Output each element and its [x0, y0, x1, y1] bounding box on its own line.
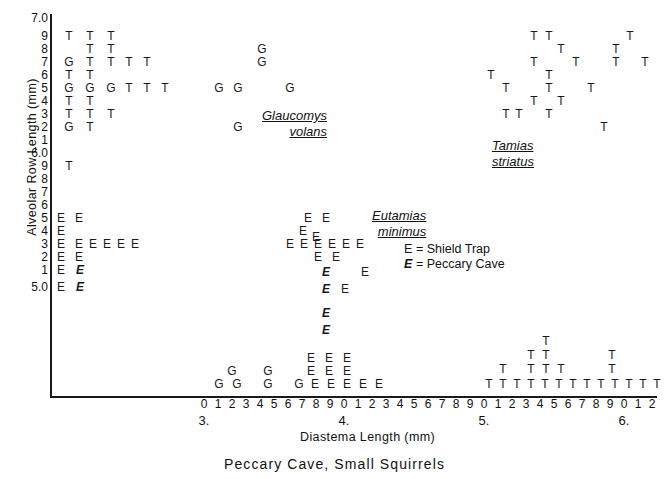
species-genus: Eutamias: [372, 208, 426, 224]
x-tick-label: 1: [212, 398, 224, 410]
x-tick-label: 2: [646, 398, 658, 410]
data-point-t: T: [554, 43, 568, 55]
data-point-g: G: [261, 365, 275, 377]
data-point-t: T: [605, 363, 619, 375]
data-point-t: T: [539, 349, 553, 361]
x-tick-label: 8: [590, 398, 602, 410]
data-point-t: T: [597, 121, 611, 133]
data-point-t: T: [140, 82, 154, 94]
data-point-t: T: [104, 56, 118, 68]
data-point-t: T: [538, 378, 552, 390]
data-point-e: E: [128, 238, 142, 250]
data-point-t: T: [580, 378, 594, 390]
data-point-t: T: [609, 43, 623, 55]
x-tick-label: 1: [632, 398, 644, 410]
legend: E= Shield TrapE= Peccary Cave: [404, 242, 505, 272]
x-tick-label: 6: [282, 398, 294, 410]
data-point-t: T: [83, 30, 97, 42]
data-point-e: E: [72, 212, 86, 224]
data-point-g: G: [231, 121, 245, 133]
x-tick-label: 0: [338, 398, 350, 410]
data-point-e: E: [100, 238, 114, 250]
data-point-t: T: [158, 82, 172, 94]
data-point-t: T: [512, 108, 526, 120]
x-tick-label: 0: [198, 398, 210, 410]
data-point-t: T: [122, 82, 136, 94]
legend-symbol: E: [404, 242, 416, 257]
legend-entry: E= Shield Trap: [404, 242, 505, 257]
data-point-g: G: [230, 378, 244, 390]
data-point-e: E: [72, 238, 86, 250]
data-point-e: E: [86, 238, 100, 250]
data-point-g: G: [255, 56, 269, 68]
data-point-t: T: [527, 95, 541, 107]
x-tick-label: 1: [492, 398, 504, 410]
x-tick-label: 6: [422, 398, 434, 410]
data-point-e-bold: E: [319, 307, 333, 319]
data-point-e: E: [54, 251, 68, 263]
data-point-e: E: [301, 212, 315, 224]
data-point-t: T: [83, 95, 97, 107]
y-axis-title: Alveolar Row Length (mm): [25, 62, 39, 252]
data-point-t: T: [608, 378, 622, 390]
data-point-e: E: [296, 225, 310, 237]
data-point-t: T: [539, 363, 553, 375]
data-point-e: E: [283, 238, 297, 250]
data-point-t: T: [140, 56, 154, 68]
data-point-t: T: [83, 69, 97, 81]
data-point-g: G: [231, 82, 245, 94]
data-point-t: T: [542, 69, 556, 81]
data-point-e: E: [297, 238, 311, 250]
x-major-tick-label: 3.: [191, 414, 217, 427]
data-point-t: T: [638, 56, 652, 68]
y-tick-label: 5.0: [12, 281, 48, 293]
data-point-t: T: [527, 56, 541, 68]
data-point-t: T: [650, 378, 664, 390]
legend-symbol: E: [404, 257, 416, 272]
x-tick-label: 9: [604, 398, 616, 410]
tamias-striatus-label: Tamiasstriatus: [492, 138, 534, 170]
data-point-g: G: [212, 378, 226, 390]
data-point-t: T: [594, 378, 608, 390]
data-point-t: T: [482, 378, 496, 390]
data-point-t: T: [566, 378, 580, 390]
data-point-t: T: [62, 69, 76, 81]
y-tick-label: 3: [38, 238, 48, 250]
data-point-e: E: [54, 264, 68, 276]
data-point-g: G: [292, 378, 306, 390]
y-tick-label: 4: [38, 225, 48, 237]
legend-label: = Peccary Cave: [416, 257, 505, 271]
data-point-t: T: [542, 30, 556, 42]
data-point-g: G: [283, 82, 297, 94]
x-tick-label: 2: [506, 398, 518, 410]
x-tick-label: 5: [408, 398, 420, 410]
y-tick-label: 7: [38, 56, 48, 68]
x-tick-label: 2: [366, 398, 378, 410]
x-tick-label: 0: [478, 398, 490, 410]
x-tick-label: 0: [618, 398, 630, 410]
y-tick-label: 9: [38, 30, 48, 42]
species-genus: Glaucomys: [262, 108, 327, 124]
x-axis-title: Diastema Length (mm): [300, 430, 435, 444]
x-tick-label: 3: [520, 398, 532, 410]
chart-canvas: 7.09876543216.09876543215.0 012345678901…: [0, 0, 669, 479]
data-point-e: E: [325, 238, 339, 250]
legend-label: = Shield Trap: [416, 242, 490, 256]
data-point-e: E: [322, 365, 336, 377]
data-point-e-bold: E: [319, 324, 333, 336]
data-point-t: T: [496, 378, 510, 390]
figure-caption: Peccary Cave, Small Squirrels: [0, 456, 669, 472]
x-tick-label: 4: [254, 398, 266, 410]
x-tick-label: 2: [226, 398, 238, 410]
y-tick-label: 8: [38, 173, 48, 185]
y-tick-label: 6: [38, 199, 48, 211]
y-tick-label: 1: [38, 134, 48, 146]
x-tick-label: 7: [576, 398, 588, 410]
y-tick-label: 4: [38, 95, 48, 107]
data-point-t: T: [552, 378, 566, 390]
y-tick-label: 7: [38, 186, 48, 198]
data-point-t: T: [122, 56, 136, 68]
data-point-t: T: [62, 108, 76, 120]
data-point-e: E: [338, 283, 352, 295]
data-point-g: G: [255, 43, 269, 55]
